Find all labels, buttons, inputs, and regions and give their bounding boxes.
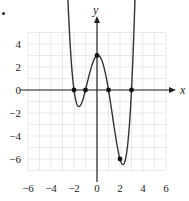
marked-points <box>72 53 134 161</box>
y-tick-label: −4 <box>9 130 21 142</box>
data-point <box>95 53 100 58</box>
x-tick-label: −2 <box>68 182 80 194</box>
x-tick-label: 0 <box>94 182 100 194</box>
y-axis-label: y <box>92 3 99 17</box>
polynomial-graph: x y −6 −4 −2 0 2 4 6 4 2 0 −2 −4 −6 <box>0 0 189 201</box>
data-point <box>106 88 111 93</box>
data-point <box>118 157 123 162</box>
data-point <box>129 88 134 93</box>
x-axis-arrow-icon <box>169 87 176 93</box>
data-point <box>83 88 88 93</box>
y-tick-label: 0 <box>16 84 22 96</box>
x-tick-label: −4 <box>45 182 57 194</box>
x-tick-label: −6 <box>22 182 34 194</box>
x-tick-label: 2 <box>117 182 123 194</box>
x-axis-label: x <box>179 83 186 97</box>
y-axis-arrow-icon <box>94 16 100 23</box>
y-tick-label: 4 <box>16 38 22 50</box>
polynomial-curve <box>67 0 136 164</box>
y-tick-label: −2 <box>9 107 21 119</box>
y-tick-label: −6 <box>9 153 21 165</box>
x-tick-label: 4 <box>140 182 146 194</box>
x-tick-label: 6 <box>163 182 169 194</box>
y-tick-label: 2 <box>16 61 22 73</box>
axes: x y <box>20 3 186 182</box>
data-point <box>72 88 77 93</box>
